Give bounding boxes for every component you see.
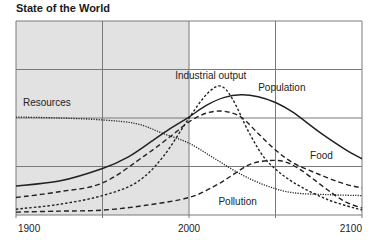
x-tick-label: 2100 [340,223,363,234]
label-population: Population [258,82,305,93]
x-tick-label: 1900 [18,223,41,234]
label-industrial-output: Industrial output [175,70,246,81]
x-tick-label: 2000 [178,223,201,234]
label-food: Food [310,150,333,161]
label-resources: Resources [23,97,71,108]
x-axis-ticks: 190020002100 [18,223,362,234]
line-chart: ResourcesPopulationFoodIndustrial output… [0,0,377,240]
label-pollution: Pollution [218,196,256,207]
